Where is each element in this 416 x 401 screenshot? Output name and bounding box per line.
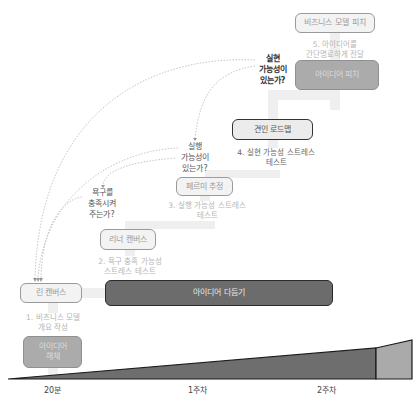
feasibility-question: 실현 가능성이 있는가? [250,53,295,86]
lean-canvas-label: 린 캔버스 [36,288,67,298]
traction-roadmap-label: 견인 로드맵 [254,125,292,135]
step3-label: 3. 실행 가능성 스트레스 테스트 [155,201,259,221]
business-model-pitch-box: 비즈니스 모델 피치 [295,13,375,33]
idea-breakdown-label: 아이디어 해체 [39,342,67,362]
idea-refine-box: 아이디어 다듬기 [105,280,333,306]
step4-label: 4. 실현 가능성 스트레스 테스트 [226,148,326,168]
lean-canvas-refined-label: 리너 캔버스 [109,235,147,245]
fermi-estimate-box: 페르미 추정 [176,177,233,196]
business-model-pitch-label: 비즈니스 모델 피치 [304,18,365,28]
step2-label: 2. 욕구 충족 가능성 스트레스 테스트 [90,257,170,277]
timeline-tail-wedge [376,340,412,379]
idea-pitch-box: 아이디어 피치 [295,60,379,90]
desirability-question: 욕구를 충족시켜 주는가? [78,187,126,220]
idea-refine-label: 아이디어 다듬기 [193,288,245,298]
step5-label: 5. 아이디어를 간단명료하게 전달 [290,40,380,60]
idea-pitch-label: 아이디어 피치 [315,70,360,80]
lean-canvas-refined-box: 리너 캔버스 [100,229,156,250]
step1-label: 1. 비즈니스 모델 개요 작성 [18,313,88,333]
lean-process-diagram: 비즈니스 모델 피치 5. 아이디어를 간단명료하게 전달 아이디어 피치 실현… [0,0,416,401]
traction-roadmap-box: 견인 로드맵 [232,119,313,140]
timeline-tick-20min: 20분 [44,384,61,395]
viability-question: 실행 가능성이 있는가? [172,141,218,174]
timeline-tick-week2: 2주차 [317,384,336,395]
lean-canvas-box: 린 캔버스 [20,283,82,303]
timeline-tick-week1: 1주차 [188,384,207,395]
idea-breakdown-box: 아이디어 해체 [23,336,82,368]
fermi-estimate-label: 페르미 추정 [186,182,224,192]
